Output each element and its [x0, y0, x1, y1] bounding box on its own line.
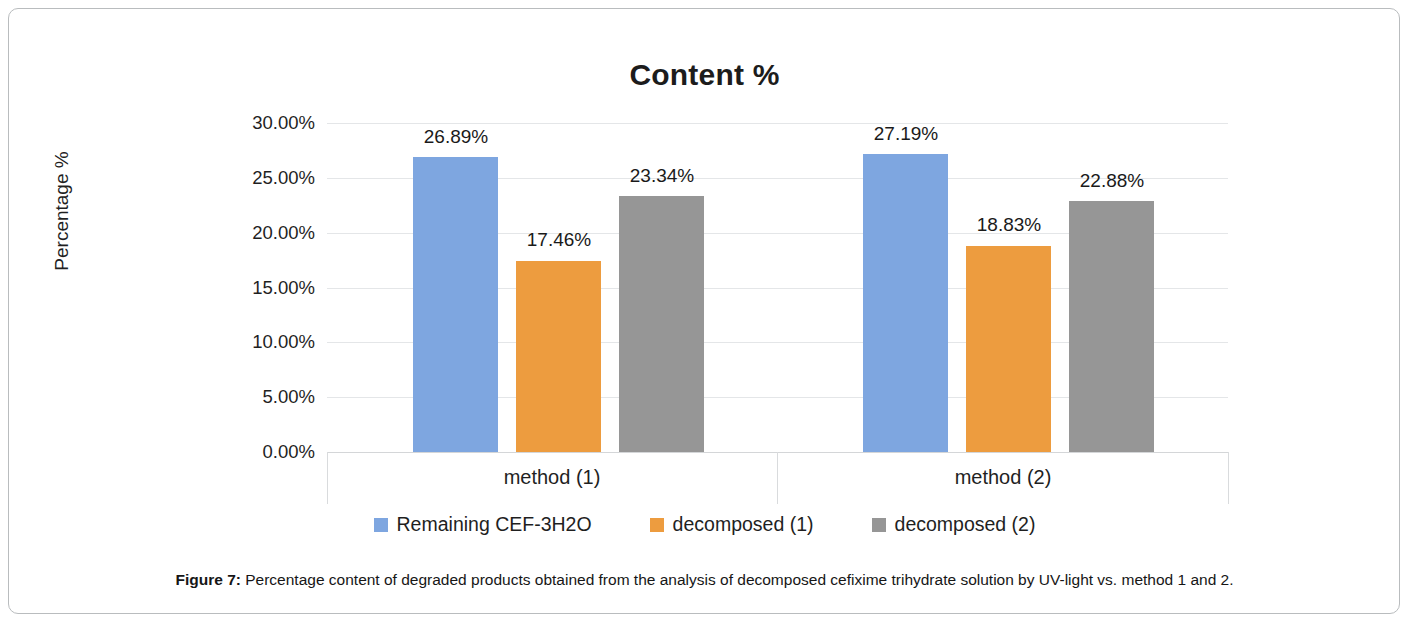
legend-label-decomposed-1: decomposed (1) — [673, 513, 814, 536]
legend-label-remaining: Remaining CEF-3H2O — [397, 513, 592, 536]
y-tick-0: 0.00% — [205, 441, 315, 463]
y-axis-title: Percentage % — [51, 91, 73, 331]
chart-title: Content % — [0, 58, 1409, 92]
y-tick-25: 25.00% — [205, 167, 315, 189]
figure-caption: Figure 7: Percentage content of degraded… — [0, 571, 1409, 589]
bar-method2-decomposed1[interactable] — [966, 246, 1051, 453]
chart-legend: Remaining CEF-3H2O decomposed (1) decomp… — [0, 513, 1409, 536]
category-label-method-1: method (1) — [327, 466, 777, 489]
figure-caption-text: Percentage content of degraded products … — [241, 571, 1234, 588]
bar-method1-remaining[interactable] — [413, 157, 498, 452]
y-tick-20: 20.00% — [205, 222, 315, 244]
legend-label-decomposed-2: decomposed (2) — [895, 513, 1036, 536]
legend-swatch-icon-decomposed-1 — [650, 518, 664, 532]
bar-method2-remaining[interactable] — [863, 154, 948, 452]
gridline-30 — [327, 123, 1228, 124]
category-label-method-2: method (2) — [778, 466, 1228, 489]
figure-container: Content % Percentage % 30.00% 25.00% 20.… — [0, 0, 1409, 624]
bar-method2-decomposed2[interactable] — [1069, 201, 1154, 452]
bar-label-method2-remaining: 27.19% — [836, 123, 976, 145]
legend-swatch-icon-remaining — [374, 518, 388, 532]
y-tick-10: 10.00% — [205, 331, 315, 353]
bar-method1-decomposed2[interactable] — [619, 196, 704, 452]
legend-swatch-icon-decomposed-2 — [872, 518, 886, 532]
bar-method1-decomposed1[interactable] — [516, 261, 601, 452]
y-tick-5: 5.00% — [205, 386, 315, 408]
bar-label-method1-remaining: 26.89% — [386, 126, 526, 148]
y-tick-30: 30.00% — [205, 112, 315, 134]
legend-item-remaining[interactable]: Remaining CEF-3H2O — [374, 513, 592, 536]
y-axis-tick-labels: 30.00% 25.00% 20.00% 15.00% 10.00% 5.00%… — [195, 123, 315, 452]
bar-label-method1-decomposed2: 23.34% — [592, 165, 732, 187]
bar-label-method2-decomposed2: 22.88% — [1042, 170, 1182, 192]
bar-label-method2-decomposed1: 18.83% — [939, 214, 1079, 236]
legend-item-decomposed-2[interactable]: decomposed (2) — [872, 513, 1036, 536]
category-divider-right — [1228, 452, 1229, 504]
plot-area: 26.89% 17.46% 23.34% 27.19% 18.83% 22.88… — [327, 123, 1228, 452]
legend-item-decomposed-1[interactable]: decomposed (1) — [650, 513, 814, 536]
bar-label-method1-decomposed1: 17.46% — [489, 229, 629, 251]
y-tick-15: 15.00% — [205, 277, 315, 299]
figure-caption-prefix: Figure 7: — [175, 571, 240, 588]
